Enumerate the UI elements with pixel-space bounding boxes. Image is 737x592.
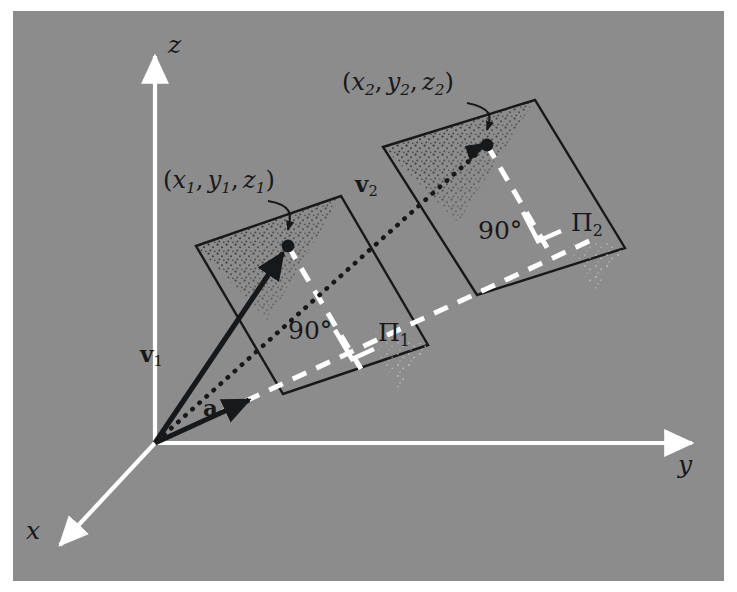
axis-label-x: x — [26, 518, 40, 543]
point-label-p2: (x2, y2, z2) — [342, 70, 454, 98]
angle-label-2: 90° — [478, 218, 522, 243]
plane-label-pi-1: Π1 — [378, 320, 410, 349]
vector-label-v1: v1 — [140, 342, 163, 369]
vector-label-v2: v2 — [355, 172, 378, 199]
vector-label-a: a — [203, 396, 218, 420]
angle-label-1: 90° — [288, 318, 332, 343]
figure-root: z y x v1 v2 a (x1, y1, z1) (x2, y2, z2) … — [0, 0, 737, 592]
axis-label-y: y — [678, 452, 692, 477]
point-p2-dot — [481, 139, 494, 152]
point-p1-dot — [282, 240, 295, 253]
plane-label-pi-2: Π2 — [571, 210, 603, 239]
point-label-p1: (x1, y1, z1) — [163, 168, 275, 196]
axis-label-z: z — [168, 32, 181, 57]
